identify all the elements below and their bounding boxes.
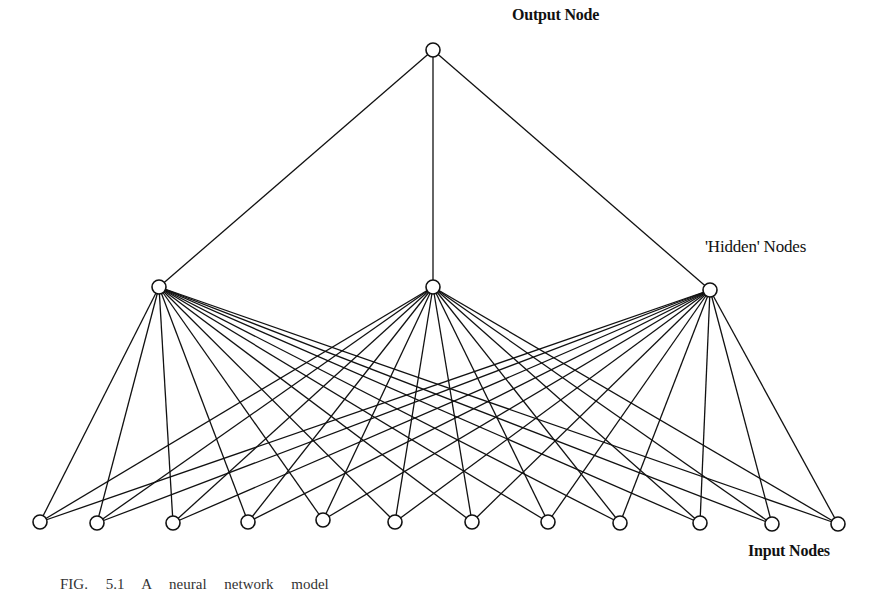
edge-input-hidden — [159, 287, 620, 523]
edge-input-hidden — [159, 287, 772, 524]
edge-input-hidden — [159, 287, 548, 522]
input-node — [613, 516, 627, 530]
input-node — [765, 517, 779, 531]
edge-input-hidden — [620, 290, 710, 523]
input-node — [316, 513, 330, 527]
input-node — [90, 516, 104, 530]
edge-input-hidden — [173, 287, 433, 523]
edge-input-hidden — [433, 287, 772, 524]
input-node — [465, 515, 479, 529]
edge-input-hidden — [323, 287, 433, 520]
edge-input-hidden — [97, 287, 159, 523]
input-node — [541, 515, 555, 529]
edge-input-hidden — [159, 287, 395, 522]
edge-input-hidden — [159, 287, 173, 523]
edge-input-hidden — [159, 287, 700, 523]
edge-input-hidden — [159, 287, 248, 522]
network-nodes — [33, 43, 845, 531]
input-node — [831, 517, 845, 531]
input-node — [166, 516, 180, 530]
edge-input-hidden — [710, 290, 838, 524]
output-node-label: Output Node — [512, 6, 599, 24]
hidden-nodes-label: 'Hidden' Nodes — [705, 237, 806, 257]
figure-caption: FIG. 5.1 A neural network model — [60, 576, 329, 593]
output-node — [426, 43, 440, 57]
edge-hidden-output — [433, 50, 710, 290]
edge-input-hidden — [433, 287, 700, 523]
hidden-node — [703, 283, 717, 297]
edge-hidden-output — [159, 50, 433, 287]
edge-input-hidden — [248, 287, 433, 522]
edge-input-hidden — [323, 290, 710, 520]
input-nodes-label: Input Nodes — [748, 542, 830, 560]
edge-input-hidden — [97, 287, 433, 523]
edge-input-hidden — [159, 287, 838, 524]
hidden-node — [152, 280, 166, 294]
input-node — [388, 515, 402, 529]
hidden-node — [426, 280, 440, 294]
input-node — [33, 515, 47, 529]
edge-input-hidden — [433, 287, 472, 522]
edge-input-hidden — [159, 287, 472, 522]
input-node — [241, 515, 255, 529]
edge-input-hidden — [710, 290, 772, 524]
edge-input-hidden — [700, 290, 710, 523]
edge-input-hidden — [159, 287, 323, 520]
input-node — [693, 516, 707, 530]
